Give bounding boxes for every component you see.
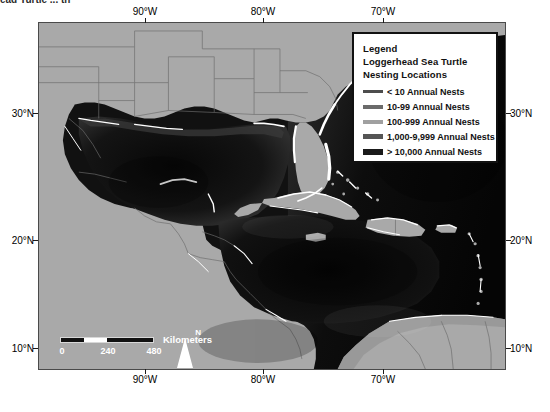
axis-label-top-70w: 70°W (371, 6, 396, 17)
legend-line-swatch-icon (363, 90, 383, 93)
scale-bar-graphic (60, 337, 154, 343)
tick-top-80w (263, 18, 264, 23)
axis-label-right-30n: 30°N (510, 108, 532, 119)
north-arrow-icon: N (175, 328, 201, 370)
axis-label-top-90w: 90°W (133, 6, 158, 17)
axis-label-bottom-90w: 90°W (133, 374, 158, 385)
legend-item[interactable]: < 10 Annual Nests (363, 84, 488, 99)
legend-heading: Legend (363, 42, 488, 55)
scale-bar-segment (61, 338, 84, 342)
axis-label-bottom-80w: 80°W (251, 374, 276, 385)
legend-line-swatch-icon (363, 134, 383, 139)
legend-line-swatch-icon (363, 105, 383, 109)
scale-bar-tick-480: 480 (146, 346, 161, 356)
legend-item-label: 1,000-9,999 Annual Nests (387, 132, 495, 142)
axis-label-right-10n: 10°N (510, 343, 532, 354)
tick-top-70w (383, 18, 384, 23)
legend-line-swatch-icon (363, 149, 383, 155)
legend-subtitle-line1: Loggerhead Sea Turtle (363, 55, 488, 68)
scale-bar-segment (84, 338, 107, 342)
scale-bar-segment (107, 338, 130, 342)
legend-item-label: 10-99 Annual Nests (387, 102, 470, 112)
axis-label-bottom-70w: 70°W (371, 374, 396, 385)
map-page: ead Turtle ... th (0, 0, 550, 412)
axis-label-top-80w: 80°W (251, 6, 276, 17)
north-arrow-label: N (195, 328, 201, 337)
axis-label-left-20n: 20°N (12, 235, 34, 246)
north-arrow-triangle (177, 338, 193, 368)
legend-item-label: < 10 Annual Nests (387, 87, 464, 97)
legend-item-list: < 10 Annual Nests 10-99 Annual Nests 100… (363, 84, 488, 159)
legend-subtitle-line2: Nesting Locations (363, 68, 488, 81)
axis-label-left-30n: 30°N (12, 108, 34, 119)
axis-label-left-10n: 10°N (12, 343, 34, 354)
legend-item[interactable]: 1,000-9,999 Annual Nests (363, 129, 488, 144)
legend-line-swatch-icon (363, 120, 383, 124)
scale-bar-tick-240: 240 (100, 346, 115, 356)
legend-item-label: > 10,000 Annual Nests (387, 147, 482, 157)
scale-bar-ticks: 0 240 480 (60, 346, 160, 358)
legend-item-label: 100-999 Annual Nests (387, 117, 480, 127)
scale-bar-tick-0: 0 (59, 346, 64, 356)
tick-top-90w (145, 18, 146, 23)
scale-bar-segment (130, 338, 153, 342)
legend-item[interactable]: 10-99 Annual Nests (363, 99, 488, 114)
clipped-caption: ead Turtle ... th (0, 0, 260, 6)
map-legend[interactable]: Legend Loggerhead Sea Turtle Nesting Loc… (352, 32, 498, 163)
legend-item[interactable]: 100-999 Annual Nests (363, 114, 488, 129)
axis-label-right-20n: 20°N (510, 235, 532, 246)
legend-item[interactable]: > 10,000 Annual Nests (363, 144, 488, 159)
